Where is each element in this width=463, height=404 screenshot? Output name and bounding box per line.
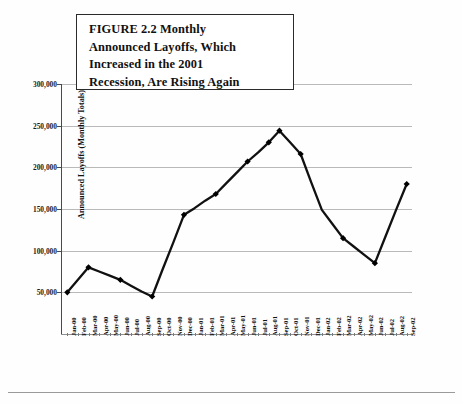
x-axis-tick-label: May-01 xyxy=(239,315,246,336)
x-axis-tick-label: Dec-01 xyxy=(314,317,321,336)
x-axis-tick-label: Jun-01 xyxy=(250,317,257,336)
x-axis-tick-mark xyxy=(290,333,291,336)
x-axis-tick-label: Sep-02 xyxy=(409,318,416,336)
x-axis-tick-mark xyxy=(311,333,312,336)
x-axis-tick-label: Jul-00 xyxy=(133,319,140,336)
title-line-1: FIGURE 2.2 Monthly xyxy=(89,22,206,36)
x-axis-tick-label: Apr-02 xyxy=(356,317,363,336)
x-axis-tick-mark xyxy=(216,333,217,336)
x-axis-tick-mark xyxy=(343,333,344,336)
y-axis-labels: 300,000250,000200,000150,000100,00050,00… xyxy=(0,84,57,335)
x-axis-tick-mark xyxy=(279,333,280,336)
x-axis-tick-label: Apr-00 xyxy=(102,317,109,336)
x-axis-tick-mark xyxy=(131,333,132,336)
x-axis-tick-label: Mar-01 xyxy=(218,316,225,336)
x-axis-tick-mark xyxy=(332,333,333,336)
gridline xyxy=(62,209,412,210)
x-axis-tick-label: Feb-02 xyxy=(335,317,342,336)
x-axis-tick-label: Jan-01 xyxy=(197,318,204,336)
y-axis-tick-mark xyxy=(57,84,62,85)
x-axis-tick-mark xyxy=(385,333,386,336)
x-axis-tick-mark xyxy=(375,333,376,336)
y-axis-tick-label: 250,000 xyxy=(33,122,57,131)
x-axis-tick-label: May-00 xyxy=(112,315,119,336)
x-axis-tick-mark xyxy=(354,333,355,336)
figure-title-box: FIGURE 2.2 Monthly Announced Layoffs, Wh… xyxy=(76,14,294,90)
x-axis-tick-mark xyxy=(258,333,259,336)
x-axis-tick-mark xyxy=(110,333,111,336)
x-axis-tick-mark xyxy=(120,333,121,336)
x-axis-tick-label: May-02 xyxy=(367,315,374,336)
x-axis-tick-label: Jul-02 xyxy=(388,319,395,336)
x-axis-tick-mark xyxy=(89,333,90,336)
x-axis-tick-label: Feb-00 xyxy=(80,317,87,336)
x-axis-tick-label: Nov-00 xyxy=(176,316,183,336)
gridline xyxy=(62,251,412,252)
page-title: FIGURE 2.2 Monthly Announced Layoffs, Wh… xyxy=(89,21,285,91)
x-axis-tick-label: Dec-00 xyxy=(186,317,193,336)
figure-container: FIGURE 2.2 Monthly Announced Layoffs, Wh… xyxy=(0,0,463,404)
gridline xyxy=(62,292,412,293)
x-axis-tick-mark xyxy=(396,333,397,336)
x-axis-tick-label: Feb-01 xyxy=(208,317,215,336)
x-axis-tick-label: Jun-00 xyxy=(123,317,130,336)
y-axis-tick-mark xyxy=(57,209,62,210)
x-axis-tick-mark xyxy=(184,333,185,336)
x-axis-tick-label: Nov-01 xyxy=(303,316,310,336)
x-axis-tick-label: Jan-02 xyxy=(324,318,331,336)
y-axis-tick-label: 150,000 xyxy=(33,205,57,214)
y-axis-tick-label: 100,000 xyxy=(33,247,57,256)
x-axis-tick-label: Aug-02 xyxy=(398,316,405,336)
y-axis-tick-label: 50,000 xyxy=(37,288,57,297)
x-axis-tick-label: Aug-01 xyxy=(271,316,278,336)
x-axis-tick-mark xyxy=(142,333,143,336)
x-axis-tick-mark xyxy=(322,333,323,336)
x-axis-tick-label: Apr-01 xyxy=(229,317,236,336)
y-axis-title: Announced Layoffs (Monthly Totals) xyxy=(77,65,86,245)
x-axis-tick-mark xyxy=(99,333,100,336)
x-axis-tick-mark xyxy=(237,333,238,336)
y-axis-tick-mark xyxy=(57,292,62,293)
x-axis-tick-label: Mar-00 xyxy=(91,316,98,336)
x-axis-tick-mark xyxy=(226,333,227,336)
y-axis-tick-mark xyxy=(57,126,62,127)
plot-area xyxy=(62,84,412,332)
x-axis-tick-mark xyxy=(407,333,408,336)
title-line-4: Recession, Are Rising Again xyxy=(89,75,239,89)
x-axis-tick-mark xyxy=(205,333,206,336)
x-axis-tick-mark xyxy=(152,333,153,336)
x-axis-tick-mark xyxy=(269,333,270,336)
x-axis-tick-mark xyxy=(248,333,249,336)
x-axis-tick-mark xyxy=(67,333,68,336)
title-line-2: Announced Layoffs, Which xyxy=(89,40,236,54)
y-axis-tick-mark xyxy=(57,251,62,252)
x-axis-tick-mark xyxy=(163,333,164,336)
y-axis-tick-label: 300,000 xyxy=(33,80,57,89)
x-axis-tick-label: Sep-01 xyxy=(282,318,289,336)
x-axis-tick-mark xyxy=(364,333,365,336)
x-axis-tick-mark xyxy=(173,333,174,336)
x-axis-tick-label: Jun-02 xyxy=(377,317,384,336)
x-axis-tick-mark xyxy=(195,333,196,336)
y-axis-tick-label: 200,000 xyxy=(33,163,57,172)
x-axis-tick-label: Sep-00 xyxy=(155,318,162,336)
x-axis-tick-label: Oct-00 xyxy=(165,318,172,336)
x-axis-tick-label: Jul-01 xyxy=(261,319,268,336)
title-line-3: Increased in the 2001 xyxy=(89,57,203,71)
gridline xyxy=(62,126,412,127)
y-axis-tick-mark xyxy=(57,167,62,168)
x-axis-tick-label: Oct-01 xyxy=(292,318,299,336)
gridline xyxy=(62,167,412,168)
x-axis-labels: Jan-00Feb-00Mar-00Apr-00May-00Jun-00Jul-… xyxy=(62,336,414,398)
x-axis-tick-label: Jan-00 xyxy=(70,318,77,336)
x-axis-tick-label: Aug-00 xyxy=(144,316,151,336)
x-axis-tick-label: Mar-02 xyxy=(345,316,352,336)
x-axis-tick-mark xyxy=(78,333,79,336)
x-axis-tick-mark xyxy=(301,333,302,336)
